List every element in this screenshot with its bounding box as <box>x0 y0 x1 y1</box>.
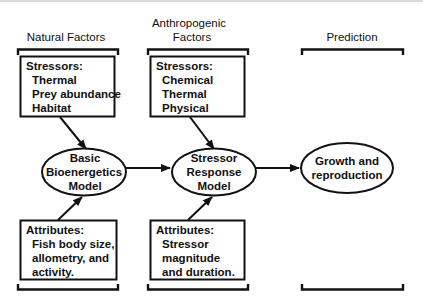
top-bracket-natural <box>18 50 118 56</box>
model-line: reproduction <box>312 169 383 181</box>
stressor-item: Habitat <box>32 102 71 114</box>
model-line: Response <box>187 166 242 178</box>
stressors-title: Stressors: <box>26 60 83 72</box>
model-line: Model <box>68 180 101 192</box>
attribute-item: Fish body size, <box>32 238 114 250</box>
arrow-anthropogenic-stressors-to-model <box>190 117 214 149</box>
attribute-item: Stressor <box>162 238 209 250</box>
bottom-bracket-natural <box>18 284 118 290</box>
stressors-title: Stressors: <box>156 60 213 72</box>
arrow-natural-stressors-to-model <box>60 117 86 149</box>
bottom-bracket-prediction <box>302 284 403 290</box>
header-natural-line-1: Natural Factors <box>27 31 106 43</box>
stressor-item: Thermal <box>32 74 77 86</box>
model-line: Stressor <box>191 152 238 164</box>
attribute-item: and duration. <box>162 266 235 278</box>
stressor-item: Chemical <box>162 74 213 86</box>
attributes-box-natural: Attributes: Fish body size, allometry, a… <box>21 221 117 280</box>
arrow-anthropogenic-attributes-to-model <box>188 197 212 220</box>
model-line: Basic <box>70 152 101 164</box>
stressor-item: Thermal <box>162 88 207 100</box>
header-anthropogenic-factors: Anthropogenic Factors <box>152 17 226 43</box>
model-basic-bioenergetics: Basic Bioenergetics Model <box>42 149 126 196</box>
model-line: Bioenergetics <box>46 166 122 178</box>
header-anthropogenic-line-2: Factors <box>173 31 212 43</box>
header-anthropogenic-line-1: Anthropogenic <box>152 17 226 29</box>
stressor-item: Physical <box>162 102 209 114</box>
header-prediction-line-1: Prediction <box>326 31 377 43</box>
top-bracket-prediction <box>302 50 403 56</box>
stressors-box-natural: Stressors: Thermal Prey abundance Habita… <box>21 57 121 117</box>
arrow-natural-attributes-to-model <box>58 197 82 220</box>
attribute-item: allometry, and <box>32 252 109 264</box>
attributes-title: Attributes: <box>26 224 84 236</box>
stressor-item: Prey abundance <box>32 88 121 100</box>
flow-diagram: Natural Factors Anthropogenic Factors Pr… <box>0 0 423 305</box>
model-stressor-response: Stressor Response Model <box>172 149 256 196</box>
header-natural-factors: Natural Factors <box>27 31 106 43</box>
attributes-box-anthropogenic: Attributes: Stressor magnitude and durat… <box>151 221 245 280</box>
model-line: Growth and <box>315 155 379 167</box>
attribute-item: activity. <box>32 266 74 278</box>
attributes-title: Attributes: <box>156 224 214 236</box>
model-growth-reproduction: Growth and reproduction <box>301 143 393 193</box>
stressors-box-anthropogenic: Stressors: Chemical Thermal Physical <box>151 57 245 117</box>
attribute-item: magnitude <box>162 252 220 264</box>
top-bracket-anthropogenic <box>148 50 248 56</box>
model-line: Model <box>197 180 230 192</box>
bottom-bracket-anthropogenic <box>148 284 248 290</box>
header-prediction: Prediction <box>326 31 377 43</box>
